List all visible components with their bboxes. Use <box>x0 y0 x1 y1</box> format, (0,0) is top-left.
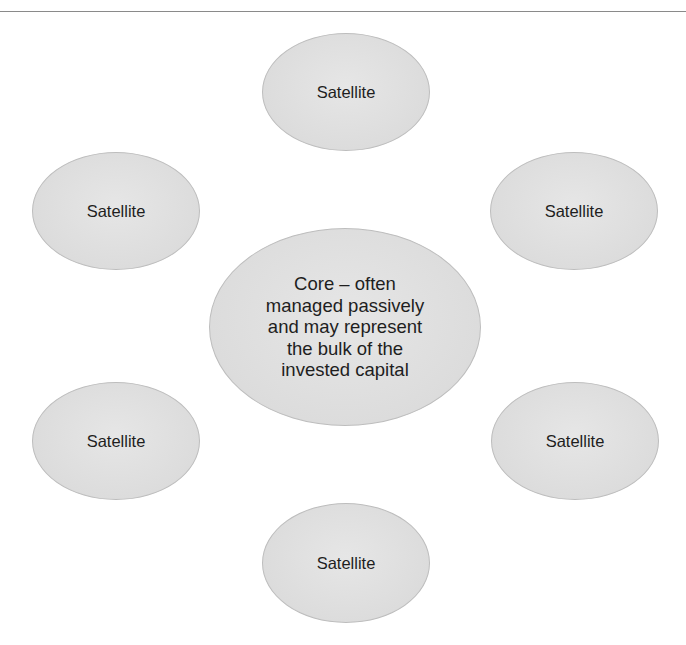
satellite-node-lower-left: Satellite <box>32 382 200 500</box>
core-text-line: and may represent <box>266 316 424 338</box>
satellite-label: Satellite <box>545 202 604 221</box>
satellite-node-top: Satellite <box>262 33 430 151</box>
core-text-line: invested capital <box>266 359 424 381</box>
core-text-line: the bulk of the <box>266 338 424 360</box>
satellite-label: Satellite <box>546 432 605 451</box>
core-text-line: Core – often <box>266 273 424 295</box>
satellite-label: Satellite <box>87 432 146 451</box>
core-node: Core – often managed passively and may r… <box>209 228 481 426</box>
satellite-node-upper-left: Satellite <box>32 152 200 270</box>
satellite-node-lower-right: Satellite <box>491 382 659 500</box>
satellite-label: Satellite <box>317 83 376 102</box>
satellite-node-upper-right: Satellite <box>490 152 658 270</box>
core-text: Core – often managed passively and may r… <box>266 273 424 381</box>
top-divider-rule <box>0 11 686 12</box>
satellite-node-bottom: Satellite <box>262 503 430 623</box>
core-text-line: managed passively <box>266 295 424 317</box>
satellite-label: Satellite <box>317 554 376 573</box>
satellite-label: Satellite <box>87 202 146 221</box>
